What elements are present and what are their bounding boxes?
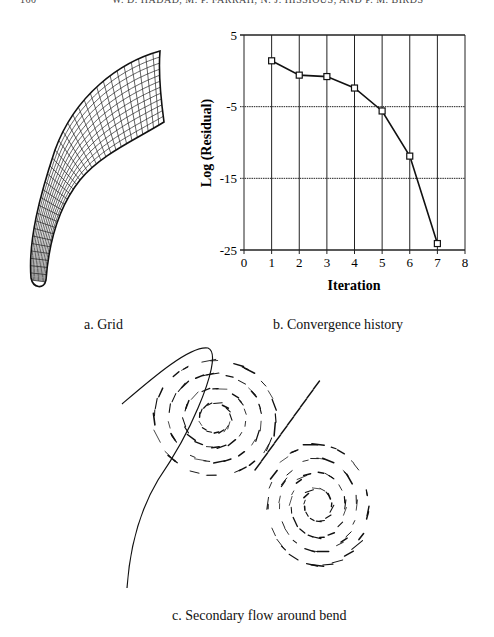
velocity-vector [326, 515, 331, 518]
x-axis-label: Iteration [328, 278, 381, 293]
x-tick-label: 3 [324, 255, 331, 270]
velocity-vector [323, 564, 333, 565]
velocity-vector [308, 535, 313, 537]
velocity-vector [296, 480, 301, 484]
velocity-vector [256, 430, 259, 441]
velocity-vector [353, 521, 355, 525]
velocity-vector [154, 430, 160, 442]
velocity-vector [183, 418, 186, 427]
velocity-vector [271, 471, 278, 479]
convergence-chart: 0123456785-5-15-25 Iteration Log (Residu… [0, 0, 494, 300]
velocity-vector [260, 421, 261, 431]
velocity-vector [281, 426, 287, 434]
velocity-vector [171, 434, 175, 441]
velocity-vector [186, 401, 189, 409]
velocity-vector [184, 367, 188, 369]
velocity-vector [262, 453, 268, 461]
velocity-vector [292, 491, 294, 495]
velocity-vector [201, 409, 203, 413]
caption-c: c. Secondary flow around bend [172, 608, 347, 624]
velocity-vector [323, 458, 334, 463]
x-tick-label: 5 [379, 255, 386, 270]
velocity-vector [305, 549, 315, 552]
y-tick-label: -5 [226, 99, 237, 114]
velocity-vector [354, 464, 359, 470]
velocity-vector [187, 435, 195, 441]
velocity-vector [259, 404, 261, 408]
velocity-vector [288, 417, 294, 425]
velocity-vector [191, 392, 198, 399]
velocity-vector [240, 401, 243, 405]
velocity-vector [268, 391, 273, 399]
velocity-vector [367, 512, 369, 519]
y-tick-label: -25 [220, 243, 237, 258]
velocity-vector [190, 455, 195, 457]
velocity-vector [168, 422, 170, 429]
velocity-vector [310, 518, 314, 520]
velocity-vector [260, 409, 261, 414]
velocity-vector [337, 542, 344, 545]
velocity-vector [339, 485, 342, 490]
velocity-vector [304, 474, 311, 476]
x-tick-label: 7 [434, 255, 441, 270]
velocity-vector [233, 394, 239, 398]
velocity-vector [172, 394, 176, 402]
velocity-vector [239, 433, 241, 437]
velocity-vector [316, 521, 321, 522]
velocity-vector [234, 364, 244, 367]
velocity-vector [252, 391, 257, 397]
velocity-vector [300, 529, 305, 533]
velocity-vector [312, 488, 320, 489]
velocity-vector [294, 408, 300, 416]
velocity-vector [281, 546, 285, 550]
velocity-vector [303, 460, 308, 461]
figure-c-secondary-flow [0, 330, 494, 600]
velocity-vector [287, 471, 292, 475]
velocity-vector [249, 461, 254, 465]
velocity-vector [182, 381, 189, 388]
velocity-vector [289, 554, 298, 560]
velocity-vector [291, 507, 292, 513]
velocity-vector [199, 421, 202, 425]
velocity-vector [289, 496, 292, 505]
velocity-vector [305, 490, 313, 493]
x-tick-label: 6 [407, 255, 414, 270]
data-point-marker [352, 85, 358, 91]
velocity-vector [204, 403, 209, 408]
velocity-vector [306, 512, 308, 516]
velocity-vector [345, 551, 354, 556]
x-tick-label: 0 [241, 255, 248, 270]
velocity-vector [169, 404, 170, 413]
velocity-vector [239, 380, 246, 384]
velocity-vector [244, 409, 246, 414]
velocity-vector [282, 478, 287, 485]
data-point-marker [324, 74, 330, 80]
velocity-vector [347, 474, 353, 484]
y-tick-label: -15 [220, 171, 237, 186]
velocity-vector [272, 399, 276, 410]
velocity-vector [366, 490, 367, 496]
velocity-vector [285, 528, 289, 534]
velocity-vector [207, 431, 212, 432]
velocity-vector [331, 447, 336, 449]
velocity-vector [219, 430, 224, 433]
velocity-vector [275, 435, 281, 443]
velocity-vector [329, 476, 334, 479]
data-point-marker [379, 108, 385, 114]
velocity-vector [279, 496, 280, 503]
velocity-vector [239, 452, 245, 456]
velocity-vector [280, 457, 288, 463]
x-tick-label: 2 [296, 255, 303, 270]
velocity-vector [195, 459, 206, 461]
velocity-vector [159, 388, 163, 397]
velocity-vector [277, 539, 283, 547]
velocity-vector [297, 476, 307, 480]
velocity-vector [272, 528, 276, 536]
velocity-vector [332, 560, 343, 563]
velocity-vector [338, 522, 343, 527]
velocity-vector [346, 532, 351, 537]
velocity-vector [352, 541, 363, 550]
velocity-vector [252, 440, 256, 446]
velocity-vector [173, 372, 179, 377]
velocity-vector [261, 381, 266, 386]
